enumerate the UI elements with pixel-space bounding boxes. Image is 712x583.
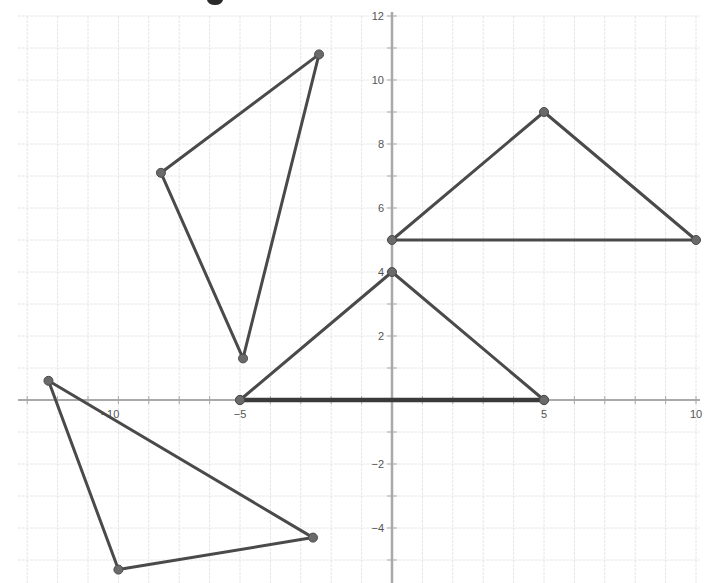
y-tick-label: 2 bbox=[378, 330, 384, 342]
vertex-point bbox=[540, 396, 549, 405]
vertex-point bbox=[692, 236, 701, 245]
coordinate-plane: −10−551012108642−2−4 bbox=[0, 0, 712, 583]
y-tick-label: 4 bbox=[378, 266, 384, 278]
x-tick-label: 10 bbox=[690, 408, 702, 420]
y-tick-label: −2 bbox=[371, 458, 384, 470]
triangles bbox=[44, 50, 701, 574]
vertex-point bbox=[156, 168, 165, 177]
x-tick-label: 5 bbox=[541, 408, 547, 420]
vertex-point bbox=[114, 565, 123, 574]
y-tick-label: 8 bbox=[378, 138, 384, 150]
vertex-point bbox=[540, 108, 549, 117]
vertex-point bbox=[236, 396, 245, 405]
vertex-point bbox=[44, 376, 53, 385]
vertex-point bbox=[388, 268, 397, 277]
x-tick-label: −5 bbox=[234, 408, 247, 420]
y-tick-label: 12 bbox=[372, 10, 384, 22]
y-tick-label: 10 bbox=[372, 74, 384, 86]
axes bbox=[18, 12, 700, 583]
vertex-point bbox=[308, 533, 317, 542]
y-tick-label: −4 bbox=[371, 522, 384, 534]
y-tick-label: 6 bbox=[378, 202, 384, 214]
vertex-point bbox=[315, 50, 324, 59]
plot-svg: −10−551012108642−2−4 bbox=[0, 0, 712, 583]
triangle-lower-left bbox=[44, 376, 317, 574]
vertex-point bbox=[388, 236, 397, 245]
vertex-point bbox=[239, 354, 248, 363]
